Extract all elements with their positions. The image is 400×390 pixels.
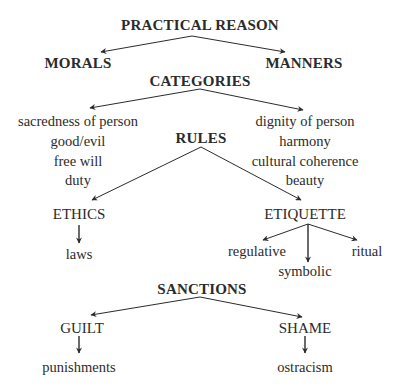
- node-symbolic: symbolic: [278, 264, 331, 279]
- node-guilt: GUILT: [60, 321, 104, 336]
- node-ritual: ritual: [352, 244, 383, 259]
- node-sanctions: SANCTIONS: [157, 282, 246, 297]
- arrow-to-shame: [200, 297, 302, 317]
- category-sacredness-of-person: sacredness of person: [18, 114, 138, 129]
- arrow-to-regulative: [263, 224, 308, 240]
- category-dignity-of-person: dignity of person: [255, 114, 354, 129]
- category-beauty: beauty: [286, 173, 325, 188]
- node-punishments: punishments: [42, 360, 115, 375]
- category-harmony: harmony: [279, 134, 331, 149]
- arrow-to-ethics: [92, 147, 201, 200]
- category-good-evil: good/evil: [51, 134, 106, 149]
- arrow-to-morals: [101, 36, 192, 52]
- node-regulative: regulative: [228, 244, 286, 259]
- category-duty: duty: [65, 173, 91, 188]
- arrow-to-ritual: [308, 224, 357, 240]
- arrow-to-dignity: [200, 89, 303, 110]
- node-shame: SHAME: [279, 321, 332, 336]
- node-morals: MORALS: [44, 56, 111, 71]
- node-laws: laws: [66, 247, 93, 262]
- arrow-to-manners: [192, 36, 285, 52]
- category-cultural-coherence: cultural coherence: [252, 154, 359, 169]
- arrow-to-sacredness: [90, 89, 200, 108]
- node-ethics: ETHICS: [53, 207, 106, 222]
- node-rules: RULES: [175, 131, 226, 146]
- node-etiquette: ETIQUETTE: [264, 207, 346, 222]
- node-ostracism: ostracism: [277, 360, 333, 375]
- practical-reason-diagram: PRACTICAL REASON MORALS MANNERS CATEGORI…: [0, 0, 400, 390]
- arrow-to-guilt: [91, 297, 200, 315]
- node-practical-reason: PRACTICAL REASON: [121, 18, 279, 33]
- node-categories: CATEGORIES: [150, 74, 251, 89]
- category-free-will: free will: [54, 154, 103, 169]
- node-manners: MANNERS: [265, 56, 342, 71]
